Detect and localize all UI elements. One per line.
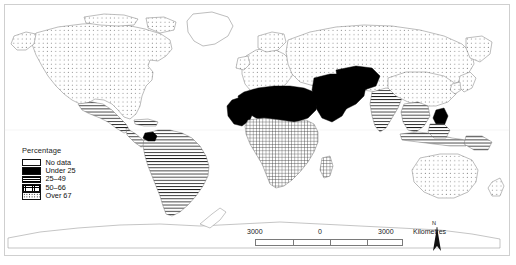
region-alaska — [11, 32, 36, 50]
map-legend: Percentage No data Under 25 25–49 50–66 … — [22, 146, 108, 200]
scale-tick-2 — [330, 240, 331, 245]
region-arabian-peninsula — [316, 92, 348, 122]
region-caribbean — [134, 119, 158, 126]
world-map-figure: Percentage No data Under 25 25–49 50–66 … — [0, 0, 516, 265]
region-philippines — [433, 108, 448, 126]
region-new-zealand — [488, 178, 504, 196]
legend-swatch-50-66 — [22, 184, 41, 192]
region-far-east — [466, 36, 492, 62]
region-sub-saharan-africa — [245, 118, 318, 188]
legend-swatch-under-25 — [22, 167, 41, 175]
scale-label-right: 3000 — [378, 228, 394, 235]
region-greenland — [187, 12, 233, 46]
legend-swatch-no-data — [22, 159, 41, 167]
region-madagascar — [320, 156, 333, 178]
north-arrow-label: N — [432, 220, 436, 226]
legend-title: Percentage — [22, 146, 108, 155]
scale-label-left: 3000 — [247, 228, 263, 235]
scale-bar-graphic — [255, 239, 403, 246]
region-southeast-asia — [401, 102, 430, 132]
legend-item-over-67: Over 67 — [22, 192, 108, 200]
region-new-guinea — [464, 136, 492, 150]
scale-bar-numbers: 3000 0 3000 Kilometres — [255, 228, 403, 238]
region-australia — [412, 154, 478, 198]
scale-bar: 3000 0 3000 Kilometres — [255, 228, 403, 246]
north-arrow: N — [425, 221, 449, 257]
legend-label-over-67: Over 67 — [46, 192, 72, 200]
region-south-america — [143, 130, 209, 216]
region-scandinavia — [258, 32, 286, 52]
north-arrow-icon — [425, 221, 449, 257]
scale-label-center: 0 — [318, 228, 322, 235]
scale-tick-3 — [367, 240, 368, 245]
scale-tick-1 — [293, 240, 294, 245]
legend-swatch-over-67 — [22, 192, 41, 200]
legend-swatch-25-49 — [22, 176, 41, 184]
